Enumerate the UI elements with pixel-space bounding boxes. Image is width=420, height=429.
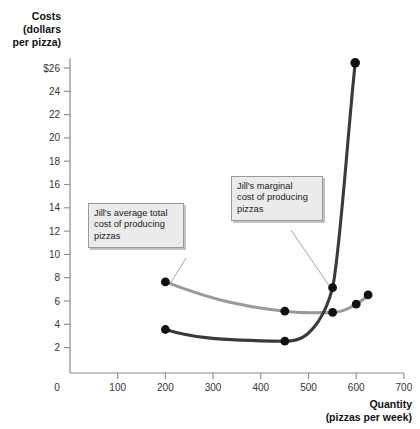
atc-point-600 [352, 300, 361, 309]
atc-point-625 [364, 291, 373, 300]
atc-callout-line3: pizzas [94, 231, 178, 242]
y-axis-title-line3: per pizza) [13, 36, 61, 48]
mc-callout-line1: Jill's marginal [237, 181, 317, 192]
x-tick-400: 400 [252, 382, 269, 393]
y-tick-8: 8 [54, 272, 60, 283]
y-tick-labels: $26 24 22 20 18 16 14 12 10 8 6 4 2 [43, 63, 60, 354]
x-tick-700: 700 [396, 382, 413, 393]
y-tick-26: $26 [43, 63, 60, 74]
atc-callout-connector [170, 258, 186, 284]
y-tick-6: 6 [54, 296, 60, 307]
atc-callout-line2: cost of producing [94, 219, 178, 230]
y-axis-title-line2: (dollars [23, 23, 61, 35]
y-tick-18: 18 [49, 156, 61, 167]
atc-point-450 [280, 307, 289, 316]
y-tick-22: 22 [49, 109, 61, 120]
y-tick-14: 14 [49, 202, 61, 213]
mc-callout-line2: cost of producing [237, 192, 317, 203]
x-axis-title-line2: (pizzas per week) [326, 411, 412, 423]
y-tick-marks [64, 68, 70, 348]
mc-callout-box: Jill's marginal cost of producing pizzas [231, 176, 323, 221]
atc-point-200 [161, 278, 170, 287]
y-tick-16: 16 [49, 179, 61, 190]
mc-point-603 [350, 58, 360, 68]
mc-point-450 [280, 337, 289, 346]
x-tick-labels: 0 100 200 300 400 500 600 700 [54, 382, 412, 393]
mc-callout-connector [291, 230, 330, 287]
x-tick-600: 600 [348, 382, 365, 393]
x-tick-0: 0 [54, 382, 60, 393]
x-axis-title-line1: Quantity [369, 398, 412, 410]
x-tick-marks [118, 373, 404, 379]
y-tick-2: 2 [54, 342, 60, 353]
mc-point-550 [328, 283, 337, 292]
y-tick-24: 24 [49, 86, 61, 97]
x-axis-title: Quantity (pizzas per week) [326, 398, 413, 423]
atc-callout-line1: Jill's average total [94, 208, 178, 219]
x-tick-100: 100 [109, 382, 126, 393]
y-tick-10: 10 [49, 249, 61, 260]
y-axis-title-line1: Costs [32, 10, 61, 22]
x-tick-500: 500 [300, 382, 317, 393]
mc-point-200 [161, 325, 170, 334]
y-tick-12: 12 [49, 226, 61, 237]
average-total-cost-curve [165, 282, 368, 313]
y-tick-20: 20 [49, 132, 61, 143]
mc-callout-line3: pizzas [237, 204, 317, 215]
y-axis-title: Costs (dollars per pizza) [13, 10, 62, 48]
atc-point-550 [328, 308, 337, 317]
x-tick-200: 200 [157, 382, 174, 393]
atc-callout-box: Jill's average total cost of producing p… [88, 203, 184, 248]
chart-canvas: $26 24 22 20 18 16 14 12 10 8 6 4 2 0 10 [0, 0, 420, 429]
x-tick-300: 300 [205, 382, 222, 393]
y-tick-4: 4 [54, 319, 60, 330]
cost-curves-chart: $26 24 22 20 18 16 14 12 10 8 6 4 2 0 10 [0, 0, 420, 429]
